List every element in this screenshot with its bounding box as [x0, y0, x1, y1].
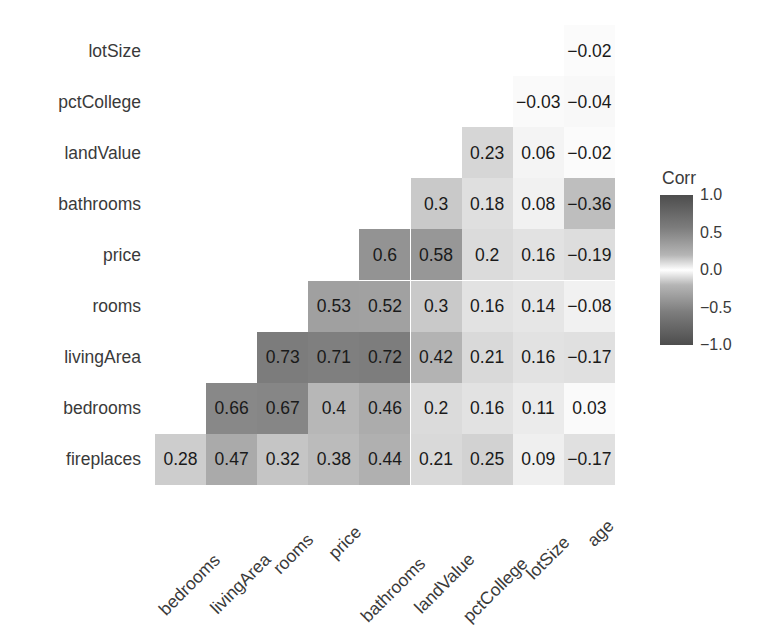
heatmap-cell: [564, 76, 615, 127]
heatmap-cell: [411, 281, 462, 332]
legend-title: Corr: [662, 168, 696, 189]
heatmap-cell: [513, 229, 564, 280]
y-axis-label: lotSize: [88, 40, 141, 61]
x-axis-label: lotSize: [522, 532, 574, 584]
heatmap-cell: [513, 434, 564, 485]
heatmap-cell: [513, 76, 564, 127]
heatmap-cell: [359, 383, 410, 434]
heatmap-cell: [359, 229, 410, 280]
x-axis-label: bathrooms: [357, 553, 430, 626]
x-axis-label: age: [583, 516, 618, 551]
y-axis-label: bathrooms: [58, 193, 141, 214]
heatmap-cell: [257, 383, 308, 434]
legend-tick-label: 1.0: [700, 186, 722, 204]
heatmap-cell: [411, 229, 462, 280]
y-axis-label: landValue: [64, 142, 141, 163]
heatmap-cell: [462, 281, 513, 332]
heatmap-cell: [564, 127, 615, 178]
heatmap-cell: [411, 332, 462, 383]
heatmap-cell: [308, 434, 359, 485]
heatmap-cell: [462, 383, 513, 434]
heatmap-cell: [513, 178, 564, 229]
heatmap-cell: [155, 434, 206, 485]
heatmap-cell: [513, 127, 564, 178]
heatmap-cell: [308, 383, 359, 434]
heatmap-cell: [564, 281, 615, 332]
heatmap-cell: [257, 434, 308, 485]
heatmap-cell: [308, 281, 359, 332]
heatmap-cell: [462, 434, 513, 485]
heatmap-cell: [411, 178, 462, 229]
heatmap-cell: [411, 383, 462, 434]
x-axis-label: rooms: [269, 529, 318, 578]
heatmap-cell: [564, 25, 615, 76]
heatmap-cell: [462, 229, 513, 280]
heatmap-cell: [206, 383, 257, 434]
y-axis-label: bedrooms: [63, 398, 141, 419]
heatmap-cell: [206, 434, 257, 485]
heatmap-cell: [308, 332, 359, 383]
legend-tick-label: −0.5: [700, 299, 732, 317]
heatmap-cell: [359, 434, 410, 485]
heatmap-cell: [564, 178, 615, 229]
heatmap-cell: [411, 434, 462, 485]
heatmap-cell: [462, 178, 513, 229]
legend-tick-label: 0.0: [700, 261, 722, 279]
heatmap-cell: [564, 229, 615, 280]
heatmap-cell: [462, 127, 513, 178]
heatmap-cell: [513, 281, 564, 332]
legend-tick-label: 0.5: [700, 224, 722, 242]
legend-tick-label: −1.0: [700, 336, 732, 354]
heatmap-cell: [359, 281, 410, 332]
heatmap-cell: [564, 434, 615, 485]
y-axis-label: livingArea: [64, 347, 141, 368]
heatmap-cell: [462, 332, 513, 383]
heatmap-cell: [513, 332, 564, 383]
heatmap-cell: [359, 332, 410, 383]
x-axis-label: price: [324, 522, 366, 564]
heatmap-cell: [564, 383, 615, 434]
heatmap-cell: [564, 332, 615, 383]
correlation-heatmap: lotSizepctCollegelandValuebathroomsprice…: [0, 0, 770, 641]
heatmap-cell: [513, 383, 564, 434]
y-axis-label: fireplaces: [66, 449, 141, 470]
y-axis-label: rooms: [92, 296, 141, 317]
heatmap-cell: [257, 332, 308, 383]
y-axis-label: pctCollege: [58, 91, 141, 112]
legend-colorbar: [660, 195, 693, 345]
y-axis-label: price: [103, 244, 141, 265]
